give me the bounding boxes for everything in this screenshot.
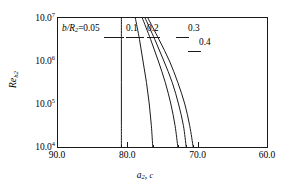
y-tick-mantissa: 10.0 (35, 56, 52, 66)
x-tick-label: 90.0 (37, 150, 77, 160)
leader-line-02 (147, 37, 160, 38)
y-tick-mantissa: 10.0 (35, 13, 52, 23)
y-tick-label-group: 10.07 10.06 10.05 10.04 (0, 0, 55, 193)
x-tick-mark-curve (186, 145, 187, 148)
leader-line-005 (104, 37, 124, 38)
y-tick-exponent: 7 (52, 11, 55, 18)
x-tick-mark (267, 142, 268, 148)
leader-line-04 (188, 51, 201, 52)
curve-label-03: 0.3 (188, 24, 200, 33)
x-tick-mark (127, 142, 128, 148)
curve-label-head: b/R (62, 23, 75, 33)
leader-line-01 (126, 37, 144, 38)
plot-area (57, 17, 268, 148)
y-tick-label: 10.05 (35, 98, 55, 110)
leader-line-03 (176, 37, 189, 38)
curve-label-02: 0.2 (147, 24, 159, 33)
x-tick-mark-curve (121, 145, 122, 148)
curve-label-01: 0.1 (126, 24, 138, 33)
figure-root: Reb2 10.07 10.06 10.05 10.04 90.0 80.0 7… (0, 0, 290, 193)
x-tick-label: 60.0 (247, 150, 287, 160)
x-axis-title: a2, c (0, 170, 290, 180)
y-tick-exponent: 6 (52, 54, 55, 61)
curve-label-04: 0.4 (199, 38, 211, 47)
x-tick-mark (57, 142, 58, 148)
x-tick-mark (198, 142, 199, 148)
curves-svg (58, 18, 267, 147)
x-tick-mark-curve (153, 145, 154, 148)
y-tick-exponent: 4 (52, 140, 55, 147)
y-tick-label: 10.07 (35, 12, 55, 24)
curve-label-tail: =0.05 (78, 23, 100, 33)
x-tick-label: 70.0 (178, 150, 218, 160)
x-tick-mark-curve (193, 145, 194, 148)
curve-label-b-over-r2: b/R2=0.05 (62, 24, 100, 34)
y-tick-exponent: 5 (52, 97, 55, 104)
x-axis-title-c: c (150, 171, 154, 180)
y-tick-label: 10.06 (35, 55, 55, 67)
x-tick-label: 80.0 (107, 150, 147, 160)
x-tick-mark-curve (178, 145, 179, 148)
y-tick-mantissa: 10.0 (35, 99, 52, 109)
